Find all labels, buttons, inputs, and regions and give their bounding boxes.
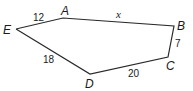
vertex-label-b: B bbox=[177, 19, 185, 33]
vertex-label-c: C bbox=[166, 59, 175, 73]
pentagon-diagram: A B C D E 12 x 7 20 18 bbox=[0, 0, 193, 91]
pentagon-outline bbox=[16, 18, 174, 74]
vertex-label-a: A bbox=[60, 4, 69, 18]
vertex-label-e: E bbox=[3, 23, 12, 37]
edge-label-bc: 7 bbox=[175, 38, 181, 49]
edge-label-de: 18 bbox=[43, 54, 55, 65]
vertex-label-d: D bbox=[85, 77, 94, 91]
edge-label-cd: 20 bbox=[128, 68, 140, 79]
edge-label-ea: 12 bbox=[33, 12, 45, 23]
edge-label-ab: x bbox=[115, 8, 121, 20]
